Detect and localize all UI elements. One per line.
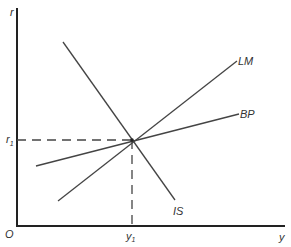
x-axis-label: y [278,231,286,243]
r1-label: r1 [6,133,14,147]
is-label: IS [173,205,184,217]
is-curve [63,42,175,200]
y1-label: y1 [125,230,136,243]
equilibrium-point [130,138,134,142]
bp-label: BP [240,108,255,120]
lm-curve [58,61,237,201]
lm-label: LM [238,55,254,67]
diagram-svg: r O y r1 y1 IS LM BP [0,0,291,247]
origin-label: O [5,228,14,240]
is-lm-bp-diagram: r O y r1 y1 IS LM BP [0,0,291,247]
y-axis-label: r [10,6,15,18]
